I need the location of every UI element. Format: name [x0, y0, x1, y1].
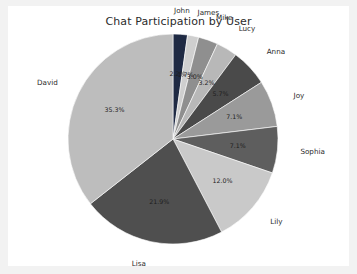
pie-percent-label: 7.1%	[226, 113, 242, 120]
pie-category-label: Lucy	[239, 24, 256, 33]
pie-svg: 2.2%1.7%3.0%3.2%5.7%7.1%7.1%12.0%21.9%35…	[8, 6, 349, 266]
pie-percent-label: 7.1%	[230, 142, 246, 149]
pie-category-label: Joy	[293, 91, 306, 100]
pie-percent-label: 3.2%	[198, 79, 214, 86]
pie-chart: 2.2%1.7%3.0%3.2%5.7%7.1%7.1%12.0%21.9%35…	[8, 6, 349, 266]
chart-figure: Chat Participation by User 2.2%1.7%3.0%3…	[8, 6, 349, 266]
pie-percent-label: 5.7%	[213, 90, 229, 97]
pie-percent-label: 35.3%	[104, 106, 124, 113]
pie-percent-label: 12.0%	[212, 177, 232, 184]
pie-category-label: John	[173, 6, 190, 15]
pie-category-label: David	[37, 78, 58, 87]
pie-category-label: Lisa	[132, 259, 146, 268]
pie-category-label: Sophia	[300, 147, 324, 156]
pie-category-label: Lily	[270, 217, 283, 226]
pie-category-label: Mike	[216, 13, 233, 22]
pie-percent-label: 21.9%	[149, 198, 169, 205]
pie-category-label: Anna	[267, 47, 285, 56]
pie-slice-group	[68, 34, 278, 244]
